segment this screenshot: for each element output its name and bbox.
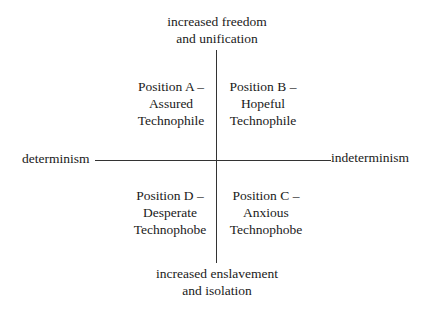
axis-top-line-2: and unification (150, 30, 284, 47)
position-c-title: Position C – (223, 187, 309, 204)
axis-left-label: determinism (22, 150, 90, 167)
position-d-adjective: Desperate (128, 204, 212, 221)
vertical-axis-line (216, 50, 217, 263)
quadrant-position-c: Position C – Anxious Technophobe (223, 187, 309, 238)
quadrant-position-d: Position D – Desperate Technophobe (128, 187, 212, 238)
position-a-adjective: Assured (132, 95, 210, 112)
position-b-title: Position B – (224, 78, 302, 95)
position-a-type: Technophile (132, 112, 210, 129)
quadrant-position-a: Position A – Assured Technophile (132, 78, 210, 129)
axis-top-line-1: increased freedom (150, 13, 284, 30)
position-a-title: Position A – (132, 78, 210, 95)
axis-right-label: indeterminism (331, 149, 409, 166)
axis-top-label: increased freedom and unification (150, 13, 284, 47)
position-b-type: Technophile (224, 112, 302, 129)
position-d-type: Technophobe (128, 221, 212, 238)
axis-bottom-line-2: and isolation (140, 282, 294, 299)
position-c-type: Technophobe (223, 221, 309, 238)
position-d-title: Position D – (128, 187, 212, 204)
quadrant-position-b: Position B – Hopeful Technophile (224, 78, 302, 129)
position-b-adjective: Hopeful (224, 95, 302, 112)
axis-bottom-label: increased enslavement and isolation (140, 265, 294, 299)
position-c-adjective: Anxious (223, 204, 309, 221)
horizontal-axis-line (95, 160, 331, 161)
axis-bottom-line-1: increased enslavement (140, 265, 294, 282)
